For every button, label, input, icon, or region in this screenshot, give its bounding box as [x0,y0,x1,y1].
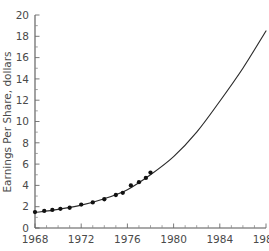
data-point [137,180,141,184]
data-point [79,202,83,206]
y-axis-title: Earnings Per Share, dollars [1,51,13,192]
y-tick-label: 14 [16,73,30,85]
fit-curve [35,31,266,213]
fit-curve-group [35,31,266,213]
y-tick-label: 10 [16,115,29,127]
x-tick-label: 1976 [114,233,141,245]
y-axis-tick-labels: 02468101214161820 [16,9,30,234]
data-point [68,206,72,210]
data-points-group [33,170,153,214]
x-tick-label: 1968 [22,233,49,245]
y-tick-label: 8 [22,137,29,149]
x-axis-tick-labels: 196819721976198019841988 [22,233,269,245]
x-tick-label: 1984 [206,233,233,245]
x-axis-group: 196819721976198019841988 [22,224,269,246]
data-point [121,191,125,195]
y-tick-label: 16 [16,51,30,63]
x-tick-label: 1988 [253,233,269,245]
earnings-per-share-chart: 02468101214161820 1968197219761980198419… [0,0,269,251]
x-tick-label: 1980 [160,233,187,245]
data-point [102,197,106,201]
data-point [42,209,46,213]
data-point [33,210,37,214]
data-point [144,176,148,180]
data-point [148,170,152,174]
x-axis-ticks [35,224,266,229]
data-point [129,183,133,187]
data-point [91,200,95,204]
y-tick-label: 20 [16,9,29,21]
data-point [114,193,118,197]
y-tick-label: 12 [16,94,29,106]
y-tick-label: 4 [22,179,29,191]
chart-canvas: 02468101214161820 1968197219761980198419… [0,0,269,251]
data-point [58,207,62,211]
y-axis-group: 02468101214161820 [16,9,40,234]
y-tick-label: 6 [22,158,29,170]
data-point [50,208,54,212]
y-tick-label: 0 [22,222,29,234]
y-axis-ticks [35,15,40,228]
x-tick-label: 1972 [68,233,95,245]
y-tick-label: 2 [22,200,29,212]
y-tick-label: 18 [16,30,29,42]
